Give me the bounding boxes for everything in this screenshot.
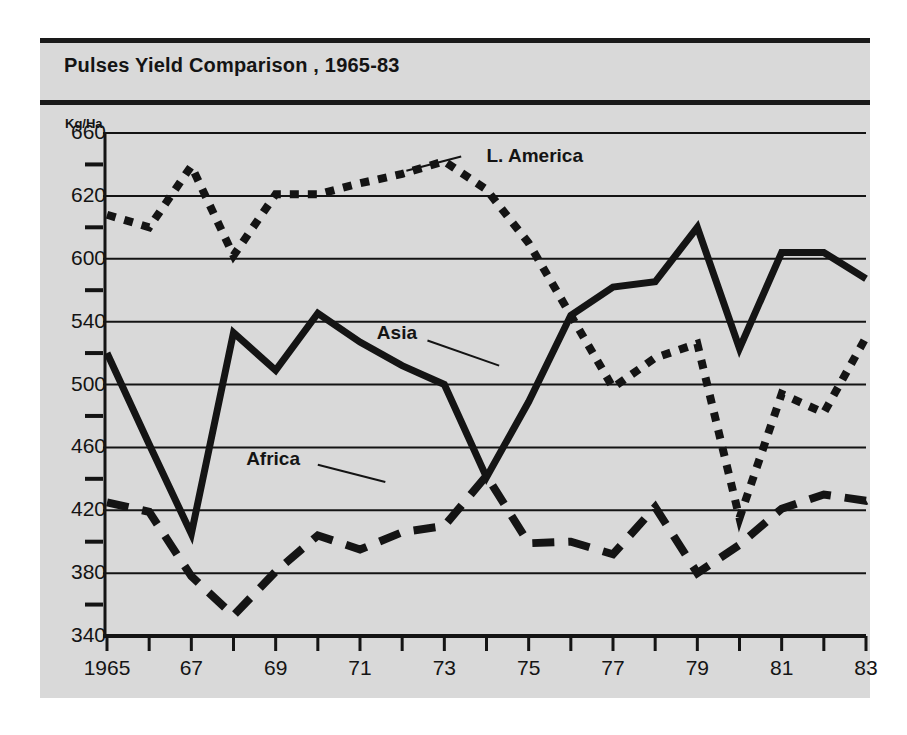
x-axis-tick-label: 81: [770, 656, 793, 680]
series-line-asia: [107, 227, 866, 534]
title-rule-top: [40, 38, 870, 43]
series-annotation-l-america: L. America: [487, 145, 583, 167]
x-axis-tick-label: 67: [180, 656, 203, 680]
series-annotation-asia: Asia: [377, 322, 417, 344]
annotation-leader-line: [318, 465, 385, 482]
annotation-leader-lines: [318, 157, 499, 482]
y-axis-minor-ticks: [85, 164, 103, 604]
series-line-l-america: [107, 161, 866, 518]
x-axis-tick-label: 1965: [84, 656, 131, 680]
x-axis-tick-label: 71: [348, 656, 371, 680]
plot-svg: [40, 100, 870, 698]
x-axis-tick-label: 77: [601, 656, 624, 680]
chart-figure: Pulses Yield Comparison , 1965-83 Kg/Ha …: [40, 38, 870, 698]
annotation-leader-line: [427, 340, 499, 365]
series-line-africa: [107, 476, 870, 616]
x-axis-tick-label: 75: [517, 656, 540, 680]
data-series-layer: [107, 161, 870, 615]
gridlines: [103, 133, 866, 636]
series-annotation-africa: Africa: [246, 448, 300, 470]
x-axis-ticks: [107, 636, 866, 651]
page-title: Pulses Yield Comparison , 1965-83: [64, 54, 400, 77]
x-axis-tick-label: 69: [264, 656, 287, 680]
x-axis-tick-label: 73: [433, 656, 456, 680]
x-axis-tick-label: 83: [854, 656, 877, 680]
x-axis-tick-labels: 1965676971737577798183: [40, 100, 870, 140]
plot-area: Kg/Ha 660620600540500460420380340 196567…: [40, 100, 870, 698]
x-axis-tick-label: 79: [686, 656, 709, 680]
